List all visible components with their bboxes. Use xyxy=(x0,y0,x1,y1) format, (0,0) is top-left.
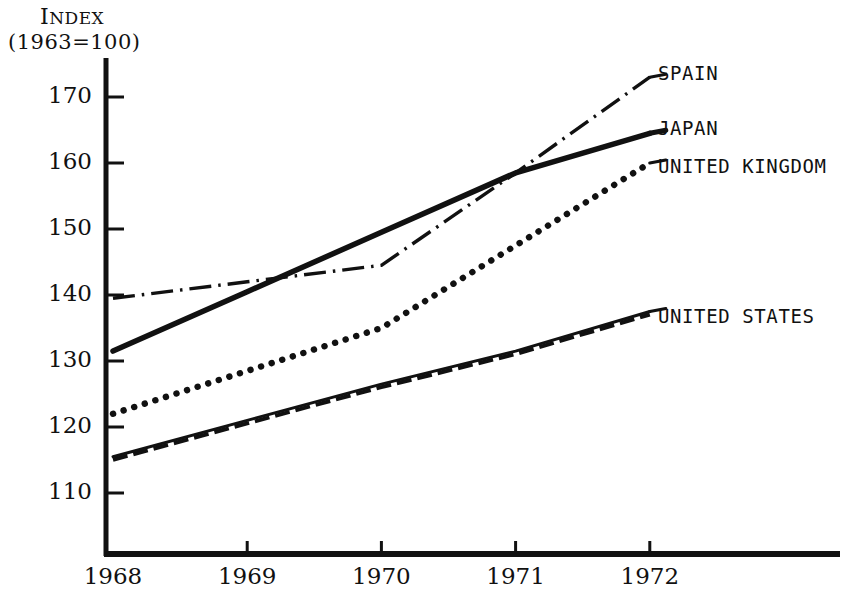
series-label-united-states: UNITED STATES xyxy=(658,305,815,327)
y-tick-label: 170 xyxy=(34,82,92,108)
series-line-spain xyxy=(113,77,650,298)
y-tick-label: 150 xyxy=(34,214,92,240)
x-tick-label: 1971 xyxy=(471,563,561,589)
y-tick-label: 130 xyxy=(34,346,92,372)
x-tick-label: 1969 xyxy=(202,563,292,589)
series-label-spain: SPAIN xyxy=(658,62,718,84)
y-axis-ticks xyxy=(106,97,124,493)
series-label-united-kingdom: UNITED KINGDOM xyxy=(658,155,827,177)
data-series-layer xyxy=(113,77,650,460)
y-tick-label: 120 xyxy=(34,412,92,438)
y-tick-label: 140 xyxy=(34,280,92,306)
y-tick-label: 110 xyxy=(34,478,92,504)
series-line-united-states xyxy=(113,312,650,457)
y-axis-title: INDEX xyxy=(40,4,104,31)
x-tick-label: 1970 xyxy=(336,563,426,589)
series-line-japan xyxy=(113,133,650,351)
x-tick-label: 1968 xyxy=(68,563,158,589)
series-label-leaders xyxy=(650,74,666,311)
y-axis-base-note: (1963=100) xyxy=(8,30,141,55)
x-tick-label: 1972 xyxy=(605,563,695,589)
chart-container: INDEX (1963=100) 170160150140130120110 1… xyxy=(0,0,853,616)
y-axis-title-text: NDEX xyxy=(49,8,104,28)
y-tick-label: 160 xyxy=(34,148,92,174)
series-label-japan: JAPAN xyxy=(658,117,718,139)
